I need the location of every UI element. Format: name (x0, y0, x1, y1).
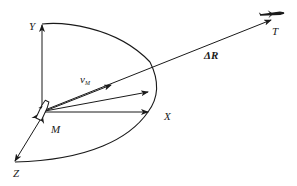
range-vector (45, 20, 271, 110)
coordinate-diagram (0, 0, 297, 186)
target-label: T (272, 26, 278, 37)
missile-label: M (51, 124, 60, 135)
velocity-label: vM (80, 74, 90, 86)
range-label: ΔR (204, 50, 218, 61)
velocity-vector (45, 85, 111, 111)
velocity-subscript: M (85, 80, 90, 86)
x-axis-label: X (164, 111, 171, 122)
aircraft-icon (259, 9, 285, 19)
projection-vector (45, 92, 148, 111)
z-axis-label: Z (13, 168, 19, 179)
sector-arc-top (42, 24, 150, 62)
y-axis-label: Y (29, 21, 35, 32)
